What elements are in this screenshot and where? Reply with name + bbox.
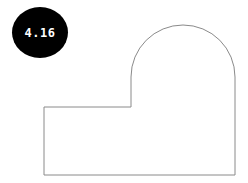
- shape-outline-path: [44, 25, 235, 175]
- figure-number-badge: 4.16: [12, 7, 68, 58]
- figure-number-label: 4.16: [25, 26, 56, 40]
- figure-canvas: 4.16: [0, 0, 248, 183]
